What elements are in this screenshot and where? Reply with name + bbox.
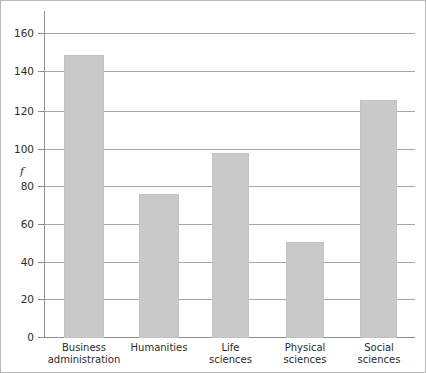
y-tick-label-120: 120 xyxy=(14,106,34,117)
y-tick-label-80: 80 xyxy=(21,181,34,192)
bar-social-sciences xyxy=(360,100,397,338)
y-tick-mark-140 xyxy=(38,71,44,72)
y-tick-mark-160 xyxy=(38,33,44,34)
y-tick-mark-0 xyxy=(38,337,44,338)
y-axis-title: f xyxy=(20,165,24,178)
y-tick-mark-100 xyxy=(38,149,44,150)
y-tick-label-140: 140 xyxy=(14,66,34,77)
y-tick-label-160: 160 xyxy=(14,28,34,39)
bar-business-administration xyxy=(64,55,104,338)
x-tick-label-humanities: Humanities xyxy=(119,342,199,354)
y-tick-mark-80 xyxy=(38,186,44,187)
gridline-160 xyxy=(44,33,415,34)
y-tick-label-100: 100 xyxy=(14,144,34,155)
y-tick-label-20: 20 xyxy=(21,294,34,305)
bar-physical-sciences xyxy=(286,242,324,338)
y-tick-label-40: 40 xyxy=(21,257,34,268)
y-axis-line xyxy=(44,11,45,338)
bar-chart-figure: 160 140 120 100 80 60 40 20 0 f Business… xyxy=(0,0,426,373)
x-tick-label-life-sciences: Life sciences xyxy=(193,342,268,366)
y-tick-mark-60 xyxy=(38,224,44,225)
y-tick-mark-20 xyxy=(38,299,44,300)
bar-life-sciences xyxy=(212,153,249,338)
bar-humanities xyxy=(139,194,179,338)
y-tick-mark-120 xyxy=(38,111,44,112)
x-tick-label-physical-sciences: Physical sciences xyxy=(267,342,343,366)
plot-area: 160 140 120 100 80 60 40 20 0 f Business… xyxy=(1,1,426,373)
y-tick-label-60: 60 xyxy=(21,219,34,230)
y-tick-label-0: 0 xyxy=(27,332,34,343)
x-tick-label-social-sciences: Social sciences xyxy=(341,342,417,366)
y-tick-mark-40 xyxy=(38,262,44,263)
